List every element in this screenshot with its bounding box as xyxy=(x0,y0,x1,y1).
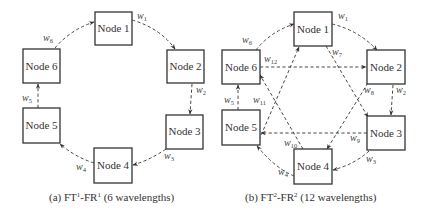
svg-text:Node 4: Node 4 xyxy=(97,159,130,171)
edge-b-w6 xyxy=(256,24,294,50)
edge-b-w2 xyxy=(391,85,393,115)
node-b-2: Node 2 xyxy=(367,50,405,84)
node-b-4: Node 4 xyxy=(294,149,332,184)
label-w2: w2 xyxy=(196,84,206,96)
edge-w3 xyxy=(133,149,166,165)
svg-text:Node 2: Node 2 xyxy=(169,60,201,72)
node-a-1: Node 1 xyxy=(95,12,132,45)
label-b-w8: w8 xyxy=(364,84,374,96)
node-a-2: Node 2 xyxy=(167,50,204,83)
node-b-3: Node 3 xyxy=(367,116,405,150)
node-b-1: Node 1 xyxy=(294,12,332,46)
svg-text:Node 3: Node 3 xyxy=(168,125,201,137)
node-a-3: Node 3 xyxy=(166,115,203,149)
label-w1: w1 xyxy=(137,10,147,22)
svg-text:Node 1: Node 1 xyxy=(97,22,129,34)
node-b-6: Node 6 xyxy=(222,50,260,84)
edge-b-w4 xyxy=(257,146,294,176)
svg-text:Node 5: Node 5 xyxy=(25,119,58,131)
diagram-a: w1 w2 w3 w4 w5 w6 Node 1 Node 2 Node 3 N… xyxy=(22,10,206,183)
svg-text:Node 1: Node 1 xyxy=(297,23,329,35)
label-b-w7: w7 xyxy=(332,46,343,58)
diagram-b: w1 w2 w3 w4 w5 w6 w7 w8 w9 w10 w11 w12 N… xyxy=(222,10,406,184)
svg-text:Node 3: Node 3 xyxy=(370,127,403,139)
svg-text:Node 6: Node 6 xyxy=(225,61,258,73)
label-b-w4: w4 xyxy=(278,166,289,178)
label-b-w3: w3 xyxy=(366,153,376,165)
edge-b-w8 xyxy=(327,83,368,149)
node-b-5: Node 5 xyxy=(222,110,260,145)
svg-text:Node 5: Node 5 xyxy=(225,121,258,133)
label-b-w10: w10 xyxy=(284,137,297,149)
label-w3: w3 xyxy=(164,150,174,162)
svg-text:Node 4: Node 4 xyxy=(297,160,330,172)
caption-a: (a) FT1-FR1 (6 wavelengths) xyxy=(49,191,174,203)
label-w6: w6 xyxy=(43,32,54,44)
edge-b-w3 xyxy=(333,151,369,170)
svg-text:Node 2: Node 2 xyxy=(370,61,402,73)
label-w4: w4 xyxy=(76,161,87,173)
label-b-w2: w2 xyxy=(396,84,406,96)
edge-w6 xyxy=(55,22,94,48)
ring-topology-diagrams: w1 w2 w3 w4 w5 w6 Node 1 Node 2 Node 3 N… xyxy=(0,0,427,220)
label-b-w1: w1 xyxy=(338,10,348,22)
label-w5: w5 xyxy=(22,92,32,104)
edge-b-w10 xyxy=(260,75,303,149)
label-b-w5: w5 xyxy=(224,94,234,106)
node-a-5: Node 5 xyxy=(23,108,60,143)
edge-b-w1 xyxy=(332,24,377,50)
node-a-4: Node 4 xyxy=(94,148,132,183)
label-b-w9: w9 xyxy=(350,132,360,144)
label-b-w11: w11 xyxy=(253,94,266,106)
edge-w1 xyxy=(132,20,175,49)
node-a-6: Node 6 xyxy=(23,49,60,83)
edge-w2 xyxy=(190,84,192,114)
svg-text:Node 6: Node 6 xyxy=(25,60,58,72)
label-b-w6: w6 xyxy=(242,34,253,46)
label-b-w12: w12 xyxy=(264,53,277,65)
caption-b: (b) FT2-FR2 (12 wavelengths) xyxy=(245,191,376,203)
